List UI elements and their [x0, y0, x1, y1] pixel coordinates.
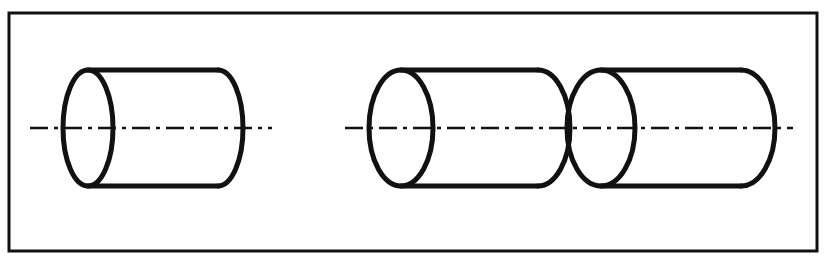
drawing-canvas: [0, 0, 830, 257]
technical-drawing-figure: Three cylinders aligned on a common hori…: [0, 0, 830, 257]
